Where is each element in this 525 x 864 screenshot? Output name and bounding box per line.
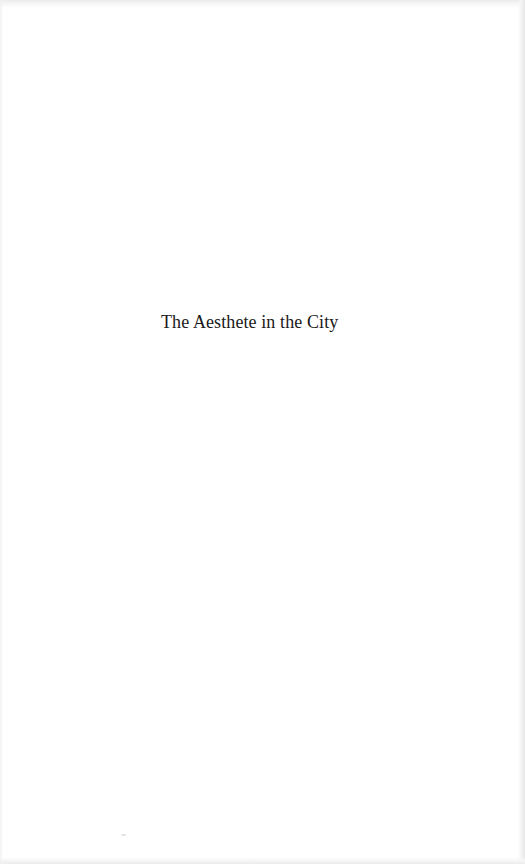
page-edge-shading-top <box>0 0 525 8</box>
page-edge-shading-left <box>0 0 3 864</box>
half-title: The Aesthete in the City <box>161 310 338 334</box>
scan-speck <box>121 834 126 836</box>
page-edge-shading-right <box>518 0 525 864</box>
page-edge-shading-bottom <box>0 857 525 864</box>
book-page: The Aesthete in the City <box>0 0 525 864</box>
